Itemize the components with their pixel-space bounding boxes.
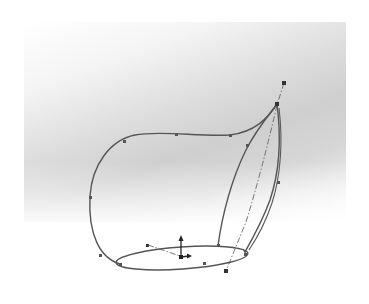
- control-points: [89, 81, 286, 273]
- apex-point[interactable]: [275, 102, 279, 106]
- control-point[interactable]: [229, 134, 232, 137]
- arrow-right-icon: [187, 254, 192, 259]
- control-point[interactable]: [217, 244, 220, 247]
- control-point[interactable]: [175, 133, 178, 136]
- control-point[interactable]: [246, 144, 249, 147]
- control-point[interactable]: [89, 196, 92, 199]
- control-point[interactable]: [277, 181, 280, 184]
- centerline-top-endpoint[interactable]: [282, 81, 286, 85]
- control-point[interactable]: [203, 262, 206, 265]
- control-point[interactable]: [244, 253, 247, 256]
- outer-guide-curve[interactable]: [90, 104, 277, 264]
- control-point[interactable]: [99, 254, 102, 257]
- centerline-bottom-endpoint[interactable]: [224, 269, 228, 273]
- inner-guide-curve[interactable]: [218, 104, 277, 246]
- right-guide-curve[interactable]: [245, 104, 279, 252]
- origin-point[interactable]: [179, 255, 183, 259]
- control-point[interactable]: [123, 140, 126, 143]
- arrow-up-icon: [179, 235, 184, 241]
- control-point[interactable]: [119, 263, 122, 266]
- wireframe-sketch: [0, 0, 369, 304]
- cad-viewport: [0, 0, 369, 304]
